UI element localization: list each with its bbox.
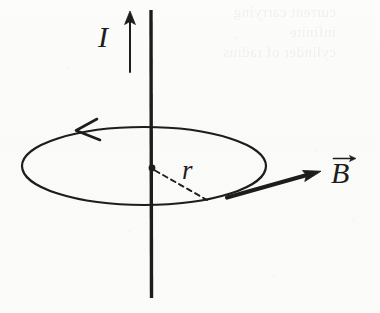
current-carrying-wire (151, 10, 152, 298)
amperian-loop-ellipse (22, 127, 266, 205)
physics-diagram-figure: current carrying infinite cylinder of ra… (0, 0, 380, 313)
radius-label: r (182, 157, 193, 184)
magnetic-field-vector-arrow-icon (227, 171, 321, 198)
bfield-label: B (331, 158, 349, 188)
current-label: I (98, 22, 108, 52)
radius-dashed-line (155, 171, 207, 201)
bfield-label-group: B (329, 150, 363, 190)
current-direction-arrow-icon (125, 11, 136, 72)
